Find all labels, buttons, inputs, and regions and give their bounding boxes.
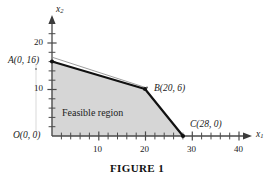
x-axis-label: x1	[256, 130, 263, 140]
feasible-region-shape	[52, 62, 183, 137]
x-tick-label-20: 20	[140, 145, 149, 154]
figure-container: x2 x1 20 10 10 20 30 40 A(0, 16) B(20, 6…	[0, 0, 274, 185]
y-tick-label-10: 10	[34, 84, 43, 93]
x-axis-arrowhead	[243, 132, 252, 139]
figure-caption: FIGURE 1	[0, 162, 274, 174]
feasible-region-label: Feasible region	[62, 108, 123, 118]
y-tick-label-20: 20	[34, 38, 43, 47]
vertex-dot-c	[181, 134, 185, 138]
marker-dot-objective	[146, 87, 148, 89]
point-label-origin: O(0, 0)	[13, 131, 40, 141]
vertex-dot-a	[50, 59, 54, 63]
marker-dot-a-guide	[35, 68, 37, 70]
point-label-b: B(20, 6)	[154, 84, 185, 94]
x-tick-label-30: 30	[187, 145, 196, 154]
y-axis-arrowhead	[48, 15, 55, 24]
x-tick-label-40: 40	[234, 145, 243, 154]
x-tick-label-10: 10	[93, 145, 102, 154]
point-label-c: C(28, 0)	[190, 120, 222, 130]
y-axis-label: x2	[56, 5, 63, 15]
point-label-a: A(0, 16)	[8, 56, 39, 66]
